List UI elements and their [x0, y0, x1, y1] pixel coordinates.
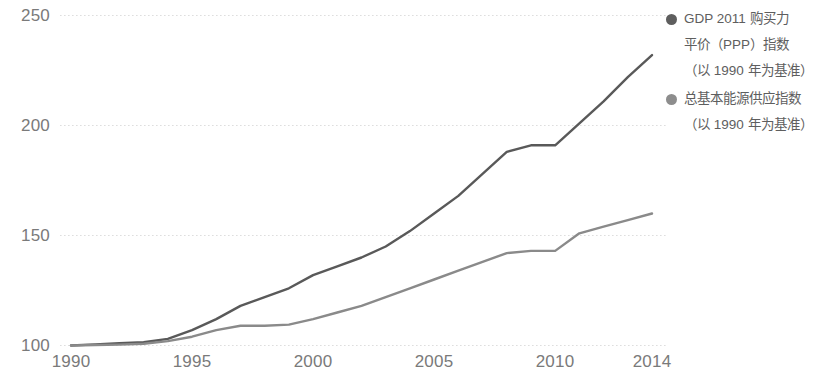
x-axis-tick-2014: 2014 — [622, 352, 682, 372]
x-axis-tick-1995: 1995 — [162, 352, 222, 372]
gridlines — [60, 16, 668, 346]
y-axis-tick-200: 200 — [6, 116, 50, 136]
line-series-energy — [71, 214, 652, 346]
legend-label-gdp-line3: （以 1990 年为基准） — [666, 58, 823, 84]
legend-marker-dot-icon — [666, 14, 677, 25]
legend-row-primary: 总基本能源供应指数 — [666, 86, 823, 112]
series-lines — [71, 55, 652, 345]
y-axis-tick-150: 150 — [6, 226, 50, 246]
x-axis-tick-1990: 1990 — [41, 352, 101, 372]
x-axis-tick-2010: 2010 — [525, 352, 585, 372]
legend-entry-energy: 总基本能源供应指数 （以 1990 年为基准） — [666, 86, 823, 138]
legend-label-energy-line1: 总基本能源供应指数 — [684, 86, 801, 112]
chart-legend: GDP 2011 购买力 平价（PPP）指数 （以 1990 年为基准） 总基本… — [666, 6, 823, 140]
chart-container: 250 200 150 100 1990 1995 2000 2005 2010… — [0, 0, 823, 376]
legend-entry-gdp: GDP 2011 购买力 平价（PPP）指数 （以 1990 年为基准） — [666, 6, 823, 84]
legend-row-primary: GDP 2011 购买力 — [666, 6, 823, 32]
legend-label-energy-line2: （以 1990 年为基准） — [666, 112, 823, 138]
line-series-gdp — [71, 55, 652, 345]
y-axis-tick-250: 250 — [6, 6, 50, 26]
legend-label-gdp-line1: GDP 2011 购买力 — [684, 6, 789, 32]
x-axis-tick-2000: 2000 — [283, 352, 343, 372]
legend-marker-dot-icon — [666, 94, 677, 105]
x-axis-tick-2005: 2005 — [404, 352, 464, 372]
legend-label-gdp-line2: 平价（PPP）指数 — [666, 32, 823, 58]
